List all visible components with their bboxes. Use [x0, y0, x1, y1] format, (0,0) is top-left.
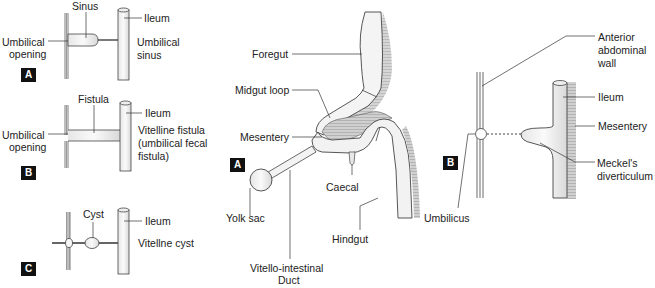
label-mesentery-right: Mesentery	[598, 120, 647, 132]
panel-b-vitelline-fistula	[48, 101, 142, 171]
label-meckels-1: Meckel's	[597, 157, 638, 169]
label-ileum-b: Ileum	[145, 107, 171, 119]
label-anterior-2: abdominal	[598, 44, 646, 56]
label-umbilical-opening-b-1: Umbilical	[2, 129, 45, 141]
sinus-shape	[68, 34, 98, 46]
label-cyst: Cyst	[83, 208, 104, 220]
label-hindgut: Hindgut	[332, 233, 368, 245]
label-umbilical-opening-a-2: opening	[9, 48, 46, 60]
badge-b-right: B	[443, 156, 458, 170]
badge-a-left: A	[21, 68, 36, 82]
label-vitello-intestinal-2: Duct	[278, 274, 300, 286]
label-meckels-2: diverticulum	[597, 170, 653, 182]
label-anterior-1: Anterior	[598, 31, 635, 43]
label-umbilical-opening-a-1: Umbilical	[2, 36, 45, 48]
ileum-tube	[118, 10, 129, 80]
label-mesentery-center: Mesentery	[240, 131, 289, 143]
badge-c-left: C	[21, 262, 36, 276]
label-yolk-sac: Yolk sac	[226, 212, 265, 224]
badge-b-left: B	[21, 166, 36, 180]
label-anterior-3: wall	[598, 57, 616, 69]
label-umbilical-opening-b-2: opening	[9, 141, 46, 153]
badge-a-center: A	[230, 158, 245, 172]
label-sinus: Sinus	[72, 0, 98, 12]
label-umbilicus: Umbilicus	[424, 212, 470, 224]
caption-vitelline-fistula-2: (umbilical fecal	[138, 137, 207, 149]
caption-vitelline-fistula-1: Vitelline fistula	[138, 124, 205, 136]
label-caecal: Caecal	[326, 181, 359, 193]
label-fistula: Fistula	[78, 93, 109, 105]
right-meckels-diagram	[458, 36, 595, 208]
label-vitello-intestinal-1: Vitello-intestinal	[250, 262, 323, 274]
label-ileum-c: Ileum	[145, 215, 171, 227]
label-midgut-loop: Midgut loop	[235, 84, 289, 96]
panel-a-umbilical-sinus	[48, 8, 142, 80]
diagram-canvas	[0, 0, 655, 288]
caption-umbilical-sinus-1: Umbilical	[137, 36, 180, 48]
caption-vitelline-cyst: Vitellne cyst	[138, 237, 194, 249]
caption-vitelline-fistula-3: fistula)	[138, 150, 169, 162]
label-ileum-a: Ileum	[144, 12, 170, 24]
caption-umbilical-sinus-2: sinus	[137, 49, 162, 61]
label-foregut: Foregut	[252, 48, 288, 60]
label-ileum-right: Ileum	[598, 91, 624, 103]
